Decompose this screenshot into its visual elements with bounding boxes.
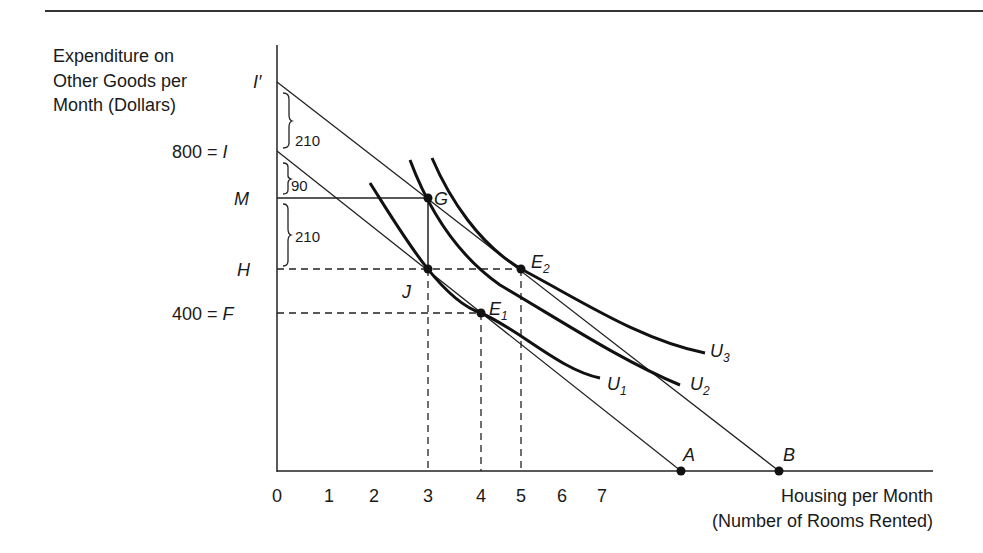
point-a bbox=[677, 467, 686, 476]
label-u1: U1 bbox=[607, 374, 627, 398]
label-e2: E2 bbox=[531, 252, 550, 276]
x-axis-label-line2: (Number of Rooms Rented) bbox=[712, 511, 933, 531]
x-tick-4: 4 bbox=[476, 486, 486, 506]
x-tick-labels: 0 1 2 3 4 5 6 7 bbox=[272, 486, 607, 506]
label-u3: U3 bbox=[710, 341, 730, 365]
indifference-curve-u1 bbox=[370, 183, 600, 378]
y-label-800: 800 = I bbox=[172, 142, 228, 162]
point-b bbox=[775, 467, 784, 476]
label-b: B bbox=[783, 445, 795, 465]
y-label-400: 400 = F bbox=[172, 304, 235, 324]
x-tick-1: 1 bbox=[324, 486, 334, 506]
label-g: G bbox=[434, 189, 448, 209]
point-g bbox=[424, 194, 433, 203]
point-e2 bbox=[517, 265, 526, 274]
label-u2: U2 bbox=[690, 374, 710, 398]
label-j: J bbox=[401, 282, 412, 302]
x-tick-5: 5 bbox=[516, 486, 526, 506]
x-tick-0: 0 bbox=[272, 486, 282, 506]
x-tick-2: 2 bbox=[369, 486, 379, 506]
label-a: A bbox=[682, 445, 695, 465]
x-axis-label-line1: Housing per Month bbox=[781, 486, 933, 506]
indifference-curve-u3 bbox=[432, 158, 705, 353]
bracket-90 bbox=[283, 163, 291, 194]
dashed-guides bbox=[277, 269, 521, 471]
bracket-label-210-upper: 210 bbox=[295, 132, 320, 149]
indifference-curve-diagram: Expenditure on Other Goods per Month (Do… bbox=[0, 0, 983, 553]
y-label-h: H bbox=[237, 260, 251, 280]
bracket-label-210-lower: 210 bbox=[295, 228, 320, 245]
x-tick-6: 6 bbox=[557, 486, 567, 506]
point-j bbox=[424, 265, 433, 274]
budget-line-i-prime-b bbox=[277, 82, 779, 471]
y-label-m: M bbox=[234, 189, 249, 209]
y-axis-label-line3: Month (Dollars) bbox=[53, 95, 176, 115]
y-axis-label-line2: Other Goods per bbox=[53, 71, 187, 91]
x-tick-7: 7 bbox=[597, 486, 607, 506]
point-e1 bbox=[477, 309, 486, 318]
bracket-label-90: 90 bbox=[291, 177, 308, 194]
y-label-i-prime: I′ bbox=[253, 72, 262, 92]
y-axis-label-line1: Expenditure on bbox=[53, 46, 174, 66]
x-tick-3: 3 bbox=[423, 486, 433, 506]
bracket-210-upper bbox=[283, 93, 292, 148]
bracket-210-lower bbox=[283, 204, 291, 266]
